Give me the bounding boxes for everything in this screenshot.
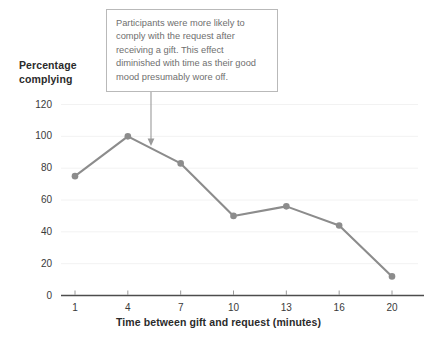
data-point <box>389 273 396 280</box>
line-chart: Percentage complying 020406080100120 147… <box>0 0 437 346</box>
data-line <box>75 136 392 276</box>
y-axis-tick-label: 80 <box>18 163 52 173</box>
x-axis-title: Time between gift and request (minutes) <box>0 316 437 328</box>
x-axis-tick-label: 10 <box>219 303 249 313</box>
y-axis-tick-label: 40 <box>18 227 52 237</box>
data-markers <box>72 133 396 280</box>
data-point <box>283 203 290 210</box>
data-point <box>177 160 184 167</box>
annotation-callout: Participants were more likely to comply … <box>106 9 278 92</box>
x-axis-tick-label: 16 <box>324 303 354 313</box>
data-point <box>230 213 237 220</box>
data-point <box>125 133 132 140</box>
x-axis-ticks <box>75 291 392 295</box>
y-axis-tick-label: 0 <box>18 291 52 301</box>
y-axis-tick-label: 120 <box>18 100 52 110</box>
gridlines <box>61 105 418 264</box>
data-point <box>336 222 343 229</box>
x-axis-tick-label: 20 <box>377 303 407 313</box>
x-axis-tick-label: 7 <box>166 303 196 313</box>
annotation-arrow <box>148 90 155 146</box>
y-axis-tick-label: 60 <box>18 195 52 205</box>
y-axis-tick-label: 20 <box>18 259 52 269</box>
x-axis-tick-label: 4 <box>113 303 143 313</box>
x-axis-tick-label: 1 <box>60 303 90 313</box>
x-axis-tick-label: 13 <box>271 303 301 313</box>
y-axis-tick-label: 100 <box>18 131 52 141</box>
data-point <box>72 173 79 180</box>
